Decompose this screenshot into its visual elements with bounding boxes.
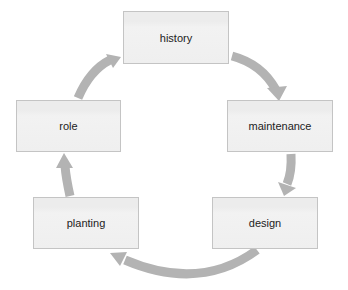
arrow-design-to-planting [110, 250, 257, 274]
node-label: role [59, 120, 77, 132]
arrow-role-to-history [78, 54, 121, 98]
arrow-history-to-maintenance [232, 56, 287, 101]
cycle-diagram: history maintenance design planting role [0, 0, 348, 290]
arrow-maintenance-to-design [278, 154, 296, 196]
node-history: history [123, 11, 229, 64]
node-label: design [249, 217, 281, 229]
arrow-planting-to-role [56, 153, 73, 196]
node-label: history [160, 32, 192, 44]
node-planting: planting [33, 197, 139, 249]
node-role: role [16, 100, 121, 152]
node-design: design [212, 197, 318, 249]
node-label: planting [67, 217, 106, 229]
node-maintenance: maintenance [227, 100, 333, 152]
node-label: maintenance [249, 120, 312, 132]
